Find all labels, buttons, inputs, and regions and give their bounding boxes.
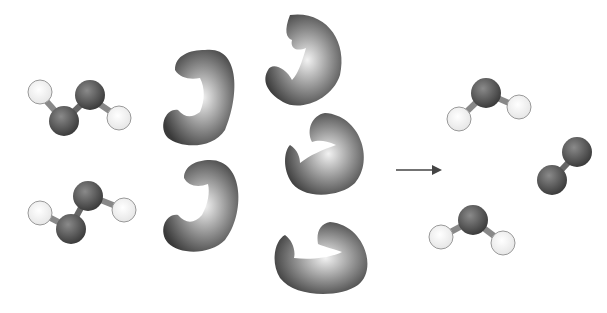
- reaction-diagram: [0, 0, 607, 313]
- oxygen-atom: [75, 80, 105, 110]
- enzyme-4: [285, 113, 364, 195]
- enzyme-1: [163, 50, 234, 146]
- hydrogen-atom: [112, 198, 136, 222]
- hydrogen-atom: [28, 201, 52, 225]
- hydrogen-atom: [28, 80, 52, 104]
- enzyme-3: [265, 14, 341, 105]
- enzyme-5: [275, 222, 368, 294]
- diagram-canvas: [0, 0, 607, 313]
- hydrogen-atom: [429, 225, 453, 249]
- enzyme-2: [163, 160, 238, 252]
- oxygen-molecule: [537, 137, 592, 195]
- hydrogen-atom: [491, 231, 515, 255]
- oxygen-atom: [458, 205, 488, 235]
- hydrogen-peroxide-molecule-2: [28, 181, 136, 244]
- oxygen-atom: [73, 181, 103, 211]
- water-molecule-2: [429, 205, 515, 255]
- water-molecule-1: [447, 78, 531, 131]
- hydrogen-atom: [107, 106, 131, 130]
- oxygen-atom: [562, 137, 592, 167]
- reaction-arrow: [396, 165, 442, 175]
- oxygen-atom: [471, 78, 501, 108]
- oxygen-atom: [56, 214, 86, 244]
- oxygen-atom: [537, 165, 567, 195]
- hydrogen-peroxide-molecule-1: [28, 80, 131, 136]
- hydrogen-atom: [447, 107, 471, 131]
- oxygen-atom: [49, 106, 79, 136]
- hydrogen-atom: [507, 95, 531, 119]
